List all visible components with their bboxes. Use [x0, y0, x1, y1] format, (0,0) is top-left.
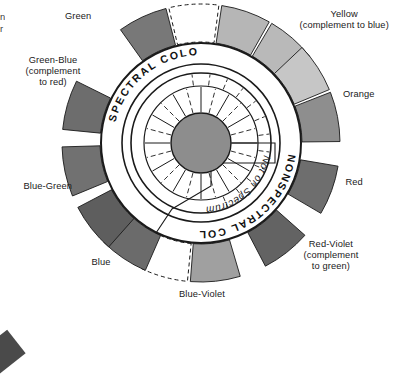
clipped-text-fragment: n r	[0, 12, 5, 35]
petal-green-yellow	[169, 4, 219, 45]
label-blue-green: Blue-Green	[24, 181, 73, 192]
label-green: Green	[65, 11, 91, 22]
label-line: Green	[65, 11, 91, 22]
label-line: (complement to blue)	[300, 20, 389, 31]
label-line: to green)	[304, 261, 359, 272]
center-hub	[171, 113, 231, 173]
label-line: Blue-Violet	[179, 289, 225, 300]
label-red-violet: Red-Violet(complementto green)	[304, 239, 359, 273]
label-orange: Orange	[343, 89, 375, 100]
label-line: Blue-Green	[24, 181, 73, 192]
label-blue-violet: Blue-Violet	[179, 289, 225, 300]
label-line: Red-Violet	[304, 239, 359, 250]
label-line: Yellow	[300, 9, 389, 20]
label-line: Green-Blue	[26, 55, 81, 66]
label-line: to red)	[26, 77, 81, 88]
label-line: Orange	[343, 89, 375, 100]
label-line: (complement	[304, 250, 359, 261]
label-red: Red	[346, 177, 363, 188]
label-green-blue: Green-Blue(complementto red)	[26, 55, 81, 89]
label-line: Red	[346, 177, 363, 188]
petal-blue-violet	[190, 240, 240, 282]
label-line: (complement	[26, 66, 81, 77]
label-yellow: Yellow(complement to blue)	[300, 9, 389, 31]
label-blue: Blue	[92, 257, 111, 268]
label-line: Blue	[92, 257, 111, 268]
